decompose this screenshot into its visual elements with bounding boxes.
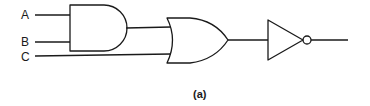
or-gate xyxy=(167,18,228,63)
and-gate xyxy=(70,5,127,51)
figure-caption: (a) xyxy=(193,88,207,100)
input-label-a: A xyxy=(21,8,29,22)
wire-and-to-or xyxy=(126,27,171,28)
input-label-c: C xyxy=(21,50,30,64)
wire-c xyxy=(35,54,171,56)
logic-circuit-diagram: A B C (a) xyxy=(0,0,370,106)
not-gate xyxy=(268,20,303,60)
inversion-bubble xyxy=(303,36,311,44)
input-label-b: B xyxy=(21,35,29,49)
